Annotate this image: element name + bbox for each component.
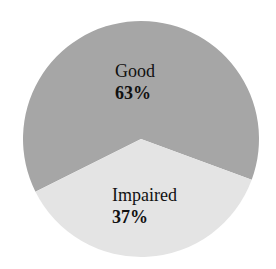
slice-label-good: Good 63% — [115, 62, 155, 102]
pie-chart: Good 63% Impaired 37% — [0, 0, 276, 269]
slice-label-impaired: Impaired 37% — [112, 186, 177, 226]
slice-name-impaired: Impaired — [112, 186, 177, 204]
slice-percent-impaired: 37% — [112, 208, 177, 226]
pie-chart-graphic — [0, 0, 276, 269]
slice-name-good: Good — [115, 62, 155, 80]
slice-percent-good: 63% — [115, 84, 155, 102]
